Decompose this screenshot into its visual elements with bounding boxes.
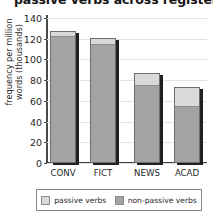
x-tick-label-fict: FICT (94, 168, 113, 178)
x-tick-label-news: NEWS (134, 168, 160, 178)
legend-label-passive: passive verbs (54, 196, 106, 205)
y-tick-label-0: 0 (36, 158, 42, 169)
y-tick-label-60: 60 (30, 95, 42, 106)
x-tick-label-acad: ACAD (175, 168, 199, 178)
legend-swatch-non-passive (115, 196, 124, 205)
y-tick-label-120: 120 (24, 33, 42, 44)
bar-stack (90, 38, 116, 163)
y-tick-label-140: 140 (24, 13, 42, 24)
y-tick-mark-80 (44, 80, 47, 81)
gridline-140 (47, 18, 207, 19)
bar-news: NEWS (134, 73, 160, 163)
segment-non-passive-news (135, 86, 159, 162)
plot-area: 020406080100120140 CONVFICTNEWSACAD (47, 18, 207, 163)
y-tick-mark-120 (44, 39, 47, 40)
segment-passive-news (135, 74, 159, 86)
y-tick-mark-140 (44, 18, 47, 19)
y-tick-label-100: 100 (24, 54, 42, 65)
segment-passive-acad (175, 88, 199, 106)
x-tick-label-conv: CONV (50, 168, 75, 178)
bar-stack (174, 87, 200, 163)
chart-title: passive verbs across registers (14, 0, 213, 7)
chart-container: passive verbs across registers frequency… (0, 0, 213, 216)
segment-non-passive-conv (51, 37, 75, 162)
bar-conv: CONV (50, 31, 76, 163)
y-tick-label-20: 20 (30, 137, 42, 148)
y-tick-mark-60 (44, 101, 47, 102)
chart-legend: passive verbs non-passive verbs (36, 189, 202, 211)
y-tick-mark-100 (44, 59, 47, 60)
legend-item-passive: passive verbs (41, 196, 106, 205)
y-tick-mark-20 (44, 142, 47, 143)
bar-stack (50, 31, 76, 163)
y-tick-label-80: 80 (30, 75, 42, 86)
bar-stack (134, 73, 160, 163)
y-axis-label-line1: frequency per million (4, 18, 14, 105)
y-tick-label-40: 40 (30, 116, 42, 127)
bar-fict: FICT (90, 38, 116, 163)
y-axis-label: frequency per million words (thousands) (4, 0, 24, 130)
legend-label-non-passive: non-passive verbs (128, 196, 197, 205)
segment-non-passive-acad (175, 107, 199, 162)
y-tick-mark-40 (44, 122, 47, 123)
legend-swatch-passive (41, 196, 50, 205)
segment-non-passive-fict (91, 45, 115, 162)
legend-item-non-passive: non-passive verbs (115, 196, 197, 205)
y-tick-mark-0 (44, 163, 47, 164)
y-axis-label-line2: words (thousands) (14, 0, 24, 130)
bar-acad: ACAD (174, 87, 200, 163)
